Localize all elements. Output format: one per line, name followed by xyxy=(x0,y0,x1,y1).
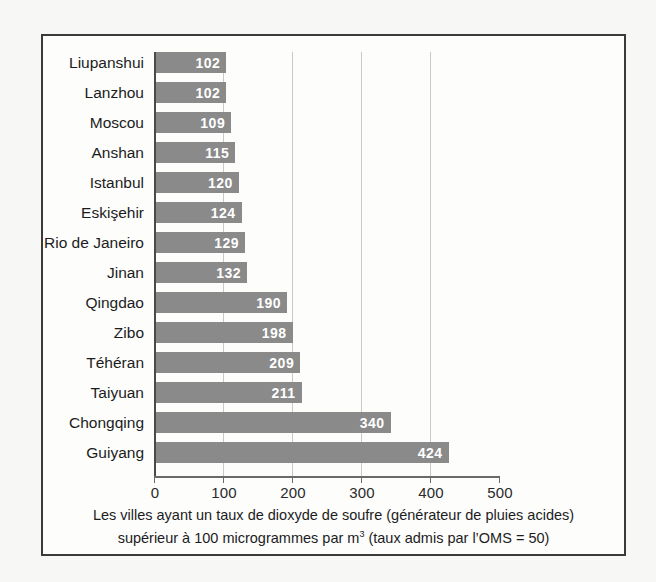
bar-value-label: 102 xyxy=(196,55,227,71)
axis-tick-200 xyxy=(292,476,293,483)
bar-rect: 109 xyxy=(156,112,231,133)
axis-tick-500 xyxy=(499,476,500,483)
bar-category-label: Chongqing xyxy=(69,414,144,432)
axis-tick-100 xyxy=(223,476,224,483)
bar-value-label: 115 xyxy=(205,145,235,161)
bar-rect: 120 xyxy=(156,172,239,193)
caption-line-2-part-a: supérieur à 100 microgrammes par m xyxy=(118,530,360,546)
bar-rect: 102 xyxy=(156,52,226,73)
axis-tick-label-200: 200 xyxy=(280,484,306,501)
bar-category-label: Moscou xyxy=(90,114,144,132)
axis-tick-label-300: 300 xyxy=(349,484,375,501)
bar-row: Eskişehir 124 xyxy=(43,202,624,223)
bar-value-label: 120 xyxy=(208,175,239,191)
bar-category-label: Anshan xyxy=(91,144,144,162)
bar-rect: 124 xyxy=(156,202,242,223)
figure-frame: Liupanshui 102 Lanzhou 102 Moscou 109 An… xyxy=(41,34,626,556)
bar-rect: 132 xyxy=(156,262,247,283)
bar-category-label: Eskişehir xyxy=(81,204,144,222)
bar-row: Taiyuan 211 xyxy=(43,382,624,403)
axis-tick-400 xyxy=(430,476,431,483)
axis-tick-label-500: 500 xyxy=(487,484,513,501)
bar-rect: 102 xyxy=(156,82,226,103)
bar-value-label: 190 xyxy=(256,295,287,311)
bar-category-label: Jinan xyxy=(107,264,144,282)
bar-row: Moscou 109 xyxy=(43,112,624,133)
bar-row: Qingdao 190 xyxy=(43,292,624,313)
bar-value-label: 102 xyxy=(196,85,227,101)
bar-rect: 190 xyxy=(156,292,287,313)
bar-row: Guiyang 424 xyxy=(43,442,624,463)
bar-row: Zibo 198 xyxy=(43,322,624,343)
bar-row: Chongqing 340 xyxy=(43,412,624,433)
bar-rect: 198 xyxy=(156,322,293,343)
bar-chart-plot-area: Liupanshui 102 Lanzhou 102 Moscou 109 An… xyxy=(43,36,624,554)
bar-category-label: Istanbul xyxy=(90,174,144,192)
bar-rect: 209 xyxy=(156,352,300,373)
bar-value-label: 129 xyxy=(214,235,245,251)
bar-value-label: 424 xyxy=(418,445,449,461)
bar-value-label: 198 xyxy=(262,325,293,341)
bar-row: Anshan 115 xyxy=(43,142,624,163)
caption-line-1: Les villes ayant un taux de dioxyde de s… xyxy=(43,506,624,525)
bar-category-label: Téhéran xyxy=(86,354,144,372)
bar-rect: 340 xyxy=(156,412,391,433)
axis-tick-label-0: 0 xyxy=(151,484,160,501)
bar-rect: 129 xyxy=(156,232,245,253)
bar-row: Rio de Janeiro 129 xyxy=(43,232,624,253)
bar-rect: 424 xyxy=(156,442,449,463)
bar-category-label: Taiyuan xyxy=(91,384,144,402)
bar-rect: 115 xyxy=(156,142,235,163)
chart-caption: Les villes ayant un taux de dioxyde de s… xyxy=(43,506,624,548)
bar-category-label: Rio de Janeiro xyxy=(44,234,144,252)
bar-category-label: Qingdao xyxy=(85,294,144,312)
value-axis-baseline xyxy=(154,476,500,478)
bar-rect: 211 xyxy=(156,382,302,403)
bar-row: Liupanshui 102 xyxy=(43,52,624,73)
bar-row: Téhéran 209 xyxy=(43,352,624,373)
caption-line-2: supérieur à 100 microgrammes par m3 (tau… xyxy=(43,525,624,548)
bar-row: Jinan 132 xyxy=(43,262,624,283)
axis-tick-label-100: 100 xyxy=(211,484,237,501)
bar-category-label: Guiyang xyxy=(86,444,144,462)
bar-value-label: 124 xyxy=(211,205,242,221)
bar-category-label: Liupanshui xyxy=(69,54,144,72)
bar-row: Lanzhou 102 xyxy=(43,82,624,103)
bar-category-label: Lanzhou xyxy=(85,84,144,102)
bar-value-label: 132 xyxy=(216,265,247,281)
axis-tick-label-400: 400 xyxy=(418,484,444,501)
bar-category-label: Zibo xyxy=(114,324,144,342)
bar-value-label: 209 xyxy=(269,355,300,371)
bar-value-label: 340 xyxy=(360,415,391,431)
bar-value-label: 211 xyxy=(272,385,302,401)
bar-row: Istanbul 120 xyxy=(43,172,624,193)
axis-tick-0 xyxy=(154,476,155,483)
bar-value-label: 109 xyxy=(200,115,231,131)
axis-tick-300 xyxy=(361,476,362,483)
caption-line-2-part-b: (taux admis par l’OMS = 50) xyxy=(364,530,549,546)
